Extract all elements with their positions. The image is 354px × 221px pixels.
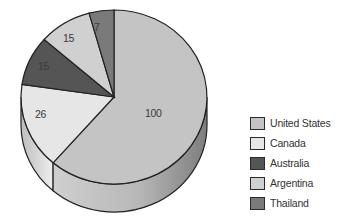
legend-swatch	[250, 177, 265, 190]
label-united-states: 100	[145, 107, 162, 119]
legend-swatch	[250, 197, 265, 210]
label-argentina: 15	[63, 32, 74, 44]
pie-top-face	[21, 10, 207, 184]
legend-label: Thailand	[270, 197, 309, 209]
legend-label: Canada	[270, 137, 306, 149]
legend-swatch	[250, 157, 265, 170]
chart-legend: United States Canada Australia Argentina…	[250, 113, 330, 213]
label-canada: 26	[35, 108, 46, 120]
label-thailand: 7	[94, 21, 100, 33]
label-australia: 15	[38, 60, 49, 72]
legend-label: Australia	[270, 157, 309, 169]
pie-chart: 100 26 15 15 7	[0, 0, 230, 221]
legend-label: United States	[270, 117, 330, 129]
legend-item-canada: Canada	[250, 133, 330, 153]
legend-item-argentina: Argentina	[250, 173, 330, 193]
legend-label: Argentina	[270, 177, 313, 189]
legend-item-thailand: Thailand	[250, 193, 330, 213]
legend-swatch	[250, 117, 265, 130]
legend-swatch	[250, 137, 265, 150]
legend-item-united-states: United States	[250, 113, 330, 133]
legend-item-australia: Australia	[250, 153, 330, 173]
